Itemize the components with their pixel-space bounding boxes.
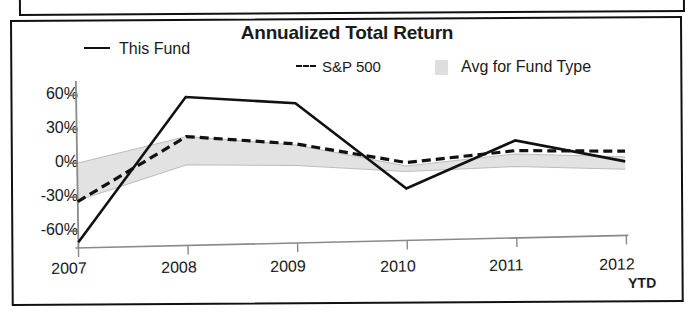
chart-content: Annualized Total Return This Fund S&P 50… (0, 0, 692, 314)
avg-fund-type-band (77, 130, 626, 201)
plot-area (0, 0, 692, 314)
x-axis-line (75, 235, 628, 248)
